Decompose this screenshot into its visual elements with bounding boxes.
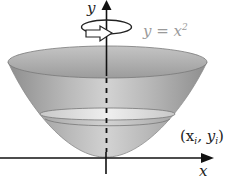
curve-exponent: 2 xyxy=(181,22,188,32)
y-axis-arrowhead-icon xyxy=(102,0,112,10)
bowl-rim xyxy=(8,46,207,78)
curve-equation: y = x2 xyxy=(142,22,188,40)
paraboloid-diagram: y x y = x2 (xi, yi) xyxy=(0,0,238,179)
x-axis-label: x xyxy=(199,162,208,179)
y-axis-label: y xyxy=(86,0,96,17)
curve-label: y = x2 xyxy=(142,22,188,40)
point-coordinates: (xi, yi) xyxy=(180,127,224,146)
paraboloid-bowl xyxy=(8,46,207,157)
point-label: (xi, yi) xyxy=(180,127,224,146)
